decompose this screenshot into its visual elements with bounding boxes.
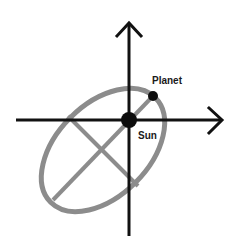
planet-body (148, 91, 158, 101)
planet-label: Planet (152, 75, 183, 86)
orbit-diagram: Planet Sun (0, 0, 238, 246)
sun-body (121, 112, 137, 128)
sun-label: Sun (138, 130, 157, 141)
